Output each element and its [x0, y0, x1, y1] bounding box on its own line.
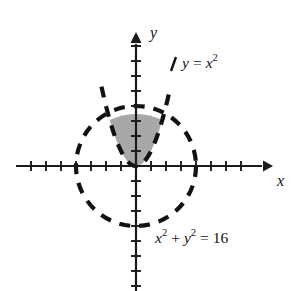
parabola-label-lhs: y	[180, 54, 189, 71]
figure-canvas: y x y=x2 x2+y2=16	[0, 0, 302, 291]
circle-label-equals: =	[200, 229, 209, 246]
circle-equation-label: x2+y2=16	[154, 227, 229, 245]
circle-label-value: 16	[213, 229, 229, 246]
parabola-label-equals: =	[193, 54, 202, 71]
y-axis-label: y	[148, 24, 158, 42]
parabola-equation-label: y=x2	[180, 52, 218, 70]
circle-label-plus: +	[171, 229, 180, 246]
circle-label-term2-exp: 2	[191, 227, 196, 238]
circle-label-term2-base: y	[182, 229, 191, 246]
circle-label-term1-exp: 2	[162, 227, 167, 238]
x-axis-arrowhead-icon	[263, 161, 273, 172]
parabola-label-exponent: 2	[213, 52, 218, 63]
parabola-label-base: x	[205, 54, 213, 71]
y-axis-arrowhead-icon	[131, 32, 142, 43]
x-axis-label: x	[276, 172, 284, 189]
parabola-label-leader	[171, 57, 176, 71]
circle-label-term1-base: x	[154, 229, 162, 246]
math-figure: y x y=x2 x2+y2=16	[0, 0, 302, 291]
